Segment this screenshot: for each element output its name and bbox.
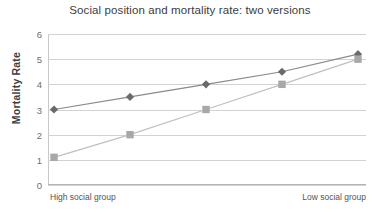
x-axis-tick-left: High social group — [50, 192, 116, 202]
x-axis-tick-right: Low social group — [302, 192, 366, 202]
chart-title: Social position and mortality rate: two … — [0, 4, 380, 16]
data-point-version-1-diamonds-2 — [202, 80, 210, 88]
y-tick-label-5: 5 — [37, 54, 42, 65]
data-point-version-1-diamonds-3 — [278, 68, 286, 76]
y-tick-label-6: 6 — [37, 29, 42, 40]
y-tick-label-1: 1 — [37, 154, 42, 165]
data-point-version-2-squares-0 — [50, 154, 57, 161]
chart-page: Social position and mortality rate: two … — [0, 0, 380, 215]
gridline-y-0 — [48, 185, 366, 186]
data-point-version-1-diamonds-1 — [126, 93, 134, 101]
data-point-version-2-squares-2 — [202, 106, 209, 113]
y-tick-label-2: 2 — [37, 129, 42, 140]
data-point-version-2-squares-1 — [126, 131, 133, 138]
y-tick-label-3: 3 — [37, 104, 42, 115]
plot-area: 0123456 High social group Low social gro… — [48, 34, 366, 185]
y-tick-label-4: 4 — [37, 79, 42, 90]
data-point-version-2-squares-3 — [278, 81, 285, 88]
data-series-layer — [48, 34, 366, 185]
y-axis-label: Mortality Rate — [10, 33, 22, 143]
data-point-version-2-squares-4 — [354, 55, 361, 62]
y-tick-label-0: 0 — [37, 180, 42, 191]
data-point-version-1-diamonds-0 — [50, 105, 58, 113]
